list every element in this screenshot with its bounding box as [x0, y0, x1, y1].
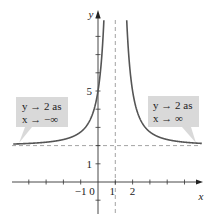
y-axis-label: y: [88, 8, 94, 20]
chart: y → 2 as x → −∞ y → 2 as x → ∞ −101215xy: [0, 0, 208, 223]
y-tick-label: 1: [87, 158, 93, 170]
x-axis-arrow-icon: [196, 180, 203, 185]
callout-right-line2: x → ∞: [153, 112, 183, 124]
y-axis-arrow-icon: [96, 10, 101, 18]
callout-left-line2: x → −∞: [22, 113, 58, 125]
callout-left: y → 2 as x → −∞: [16, 97, 68, 143]
x-tick-label: −1: [75, 185, 87, 197]
x-tick-label: 1: [110, 185, 116, 197]
x-tick-label: 0: [89, 185, 95, 197]
callout-right-line1: y → 2 as: [153, 99, 192, 111]
y-tick-label: 5: [87, 85, 93, 97]
x-axis-label: x: [198, 190, 204, 202]
x-tick-label: 2: [130, 185, 136, 197]
callout-left-line1: y → 2 as: [22, 100, 61, 112]
callouts: y → 2 as x → −∞ y → 2 as x → ∞: [16, 96, 199, 143]
